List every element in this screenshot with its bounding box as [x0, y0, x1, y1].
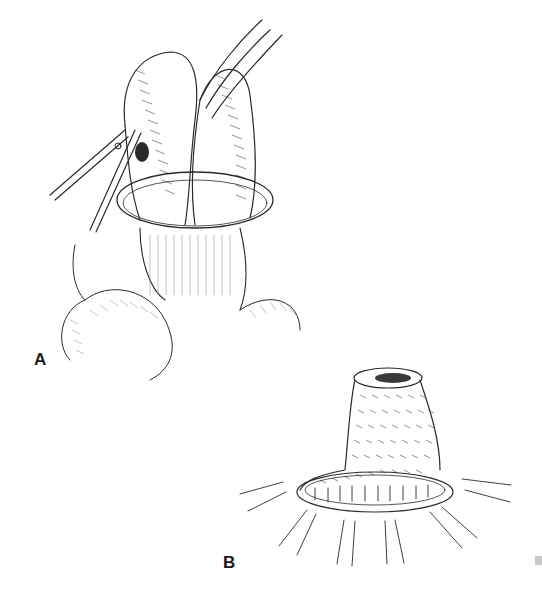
panel-label-b: B — [223, 553, 235, 573]
panel-label-a: A — [34, 350, 46, 370]
panel-b-illustration — [0, 0, 542, 596]
corner-mark — [535, 556, 542, 565]
medical-figure: A B — [0, 0, 542, 596]
